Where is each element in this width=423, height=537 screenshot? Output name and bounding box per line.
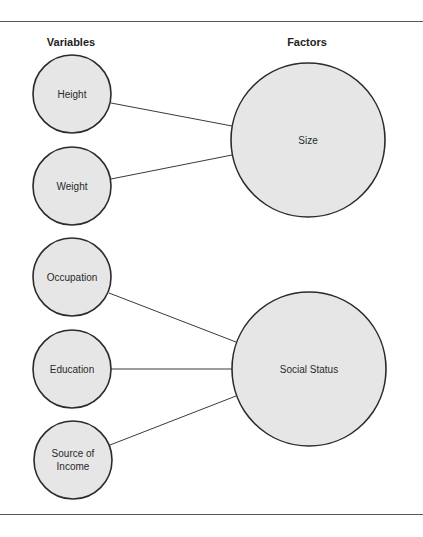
edge-2 [109, 293, 236, 342]
edges [109, 103, 236, 445]
factor-label-size: Size [298, 134, 317, 147]
variable-label-education: Education [50, 363, 94, 376]
variable-label-height: Height [58, 88, 87, 101]
variable-label-occupation: Occupation [47, 271, 98, 284]
variable-label-weight: Weight [57, 180, 88, 193]
edge-0 [111, 103, 232, 126]
edge-1 [111, 155, 232, 179]
variable-label-source-of-income: Source of Income [52, 447, 95, 473]
factor-label-social-status: Social Status [280, 363, 338, 376]
edge-4 [110, 396, 236, 445]
